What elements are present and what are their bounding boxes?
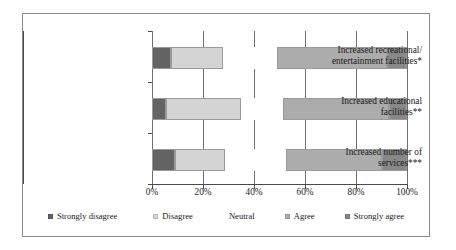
legend-swatch-icon — [345, 214, 350, 219]
bar-segment — [152, 98, 166, 120]
bar-segment — [166, 98, 241, 120]
legend-item[interactable]: Strongly agree — [345, 211, 404, 221]
x-tick-label-20%: 20% — [194, 187, 211, 197]
legend-label: Neutral — [229, 211, 255, 221]
bar-segment — [241, 98, 283, 120]
x-tick-label-100%: 100% — [396, 187, 418, 197]
x-tick-label-60%: 60% — [296, 187, 313, 197]
bar-segment — [225, 149, 286, 171]
bar-segment — [152, 149, 175, 171]
x-tick-label-0%: 0% — [146, 187, 158, 197]
x-axis-line — [152, 184, 408, 185]
chart-figure: Increased recreational/entertainment fac… — [22, 13, 430, 237]
legend-item[interactable]: Neutral — [227, 211, 255, 221]
legend-swatch-icon — [153, 214, 158, 219]
y-tick-mark-3 — [148, 184, 152, 185]
bar-segment — [175, 149, 225, 171]
category-label: Increased educationalfacilities** — [301, 96, 429, 119]
legend-label: Strongly agree — [354, 211, 404, 221]
chart-legend: Strongly disagreeDisagreeNeutralAgreeStr… — [23, 207, 429, 225]
bar-segment — [152, 47, 171, 69]
legend-label: Disagree — [162, 211, 193, 221]
legend-item[interactable]: Strongly disagree — [48, 211, 117, 221]
category-label: Increased number ofservices*** — [301, 147, 429, 170]
x-tick-label-80%: 80% — [347, 187, 364, 197]
legend-swatch-icon — [48, 214, 53, 219]
y-tick-mark-0 — [148, 31, 152, 32]
y-tick-mark-2 — [148, 133, 152, 134]
category-label: Increased recreational/entertainment fac… — [301, 45, 429, 68]
legend-swatch-icon — [285, 214, 290, 219]
bar-segment — [171, 47, 223, 69]
legend-label: Agree — [294, 211, 315, 221]
bar-segment — [223, 47, 277, 69]
x-tick-label-40%: 40% — [245, 187, 262, 197]
legend-item[interactable]: Disagree — [153, 211, 193, 221]
legend-item[interactable]: Agree — [285, 211, 315, 221]
y-tick-mark-1 — [148, 82, 152, 83]
legend-label: Strongly disagree — [57, 211, 117, 221]
